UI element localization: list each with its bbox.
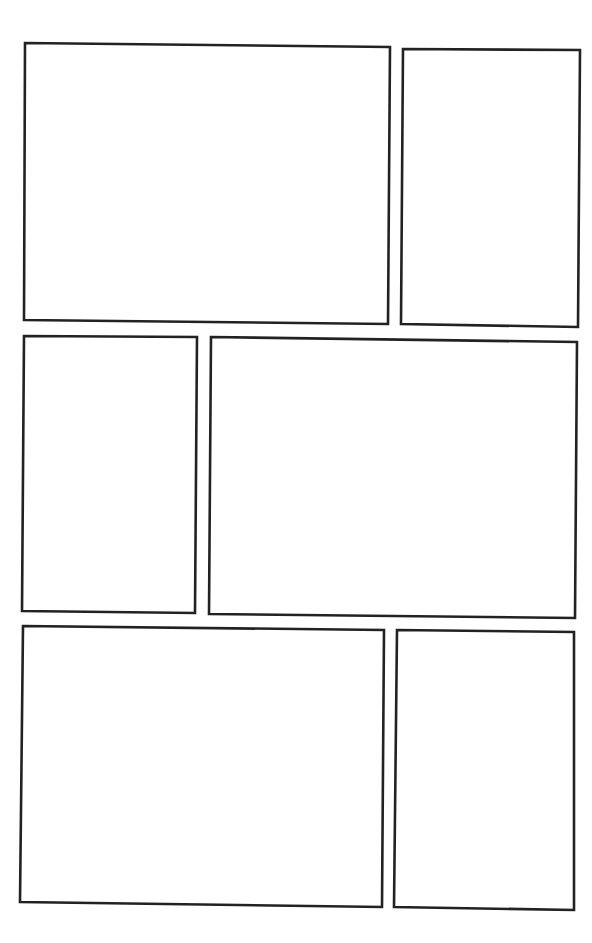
panel-2 (401, 49, 580, 327)
panel-3 (22, 336, 197, 613)
panel-4 (209, 337, 577, 618)
comic-page (0, 0, 592, 943)
panel-6 (394, 630, 574, 910)
panel-layout (0, 0, 592, 943)
panel-1 (24, 43, 390, 324)
panel-5 (20, 626, 384, 907)
